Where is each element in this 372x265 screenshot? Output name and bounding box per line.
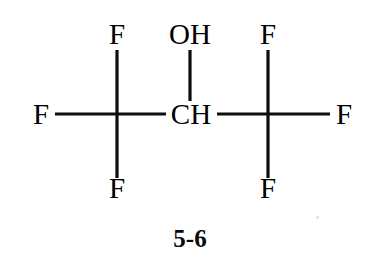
atom-label-top-left-fluorine: F bbox=[109, 18, 125, 50]
scan-artifact-speck bbox=[316, 216, 319, 219]
atom-label-bottom-left-fluorine: F bbox=[109, 172, 125, 204]
atom-label-bottom-right-fluorine: F bbox=[260, 172, 276, 204]
atom-label-group: F OH F F CH F F F bbox=[33, 18, 352, 204]
chemical-structure-figure: F OH F F CH F F F 5-6 bbox=[0, 0, 372, 265]
atom-label-right-fluorine: F bbox=[336, 98, 352, 130]
atom-label-central-carbon: CH bbox=[171, 98, 211, 130]
structure-canvas: F OH F F CH F F F 5-6 bbox=[0, 0, 372, 265]
figure-caption: 5-6 bbox=[173, 225, 206, 252]
atom-label-top-right-fluorine: F bbox=[260, 18, 276, 50]
atom-label-hydroxyl: OH bbox=[169, 18, 211, 50]
atom-label-left-fluorine: F bbox=[33, 98, 49, 130]
